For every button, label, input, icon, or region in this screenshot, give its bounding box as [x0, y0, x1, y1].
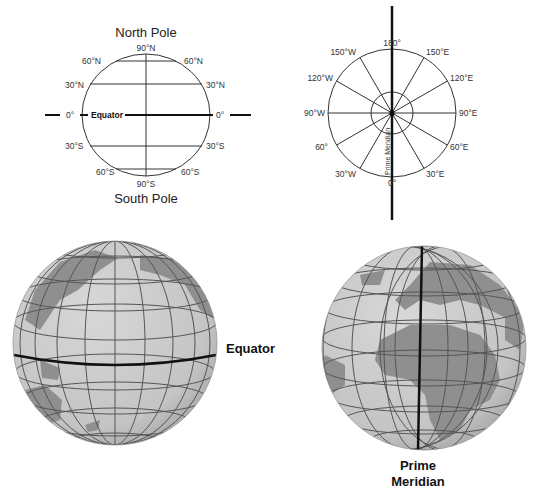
lon-90w-label: 90°W [304, 108, 325, 118]
longitude-diagram: 180° 0° 150°W 120°W 90°W 60° 30°W 150°E … [304, 6, 478, 220]
lat-60n-left-label: 60°N [82, 56, 101, 66]
lat-60n-right-label: 60°N [184, 56, 203, 66]
lat-90s-label: 90°S [137, 179, 156, 189]
lon-0-label: 0° [388, 178, 396, 188]
globe-equator-label: Equator [226, 341, 275, 356]
lon-60e-label: 60°E [450, 142, 469, 152]
lat-30s-right-label: 30°S [206, 141, 225, 151]
globe-equator: Equator [13, 238, 275, 453]
lat-30s-left-label: 30°S [65, 141, 84, 151]
lat-30n-right-label: 30°N [206, 80, 225, 90]
lat-60s-right-label: 60°S [181, 167, 200, 177]
lon-120e-label: 120°E [450, 73, 474, 83]
lat-30n-left-label: 30°N [65, 80, 84, 90]
lat-0-left-label: 0° [66, 110, 74, 120]
globe-prime-meridian: Prime Meridian [302, 246, 526, 489]
lon-150e-label: 150°E [426, 47, 450, 57]
north-pole-title: North Pole [115, 25, 176, 40]
lon-180-label: 180° [383, 38, 401, 48]
lon-30w-label: 30°W [335, 169, 356, 179]
globe-prime-label-line2: Meridian [391, 474, 445, 489]
lat-60s-left-label: 60°S [96, 167, 115, 177]
globe-prime-label-line1: Prime [400, 458, 436, 473]
lon-150w-label: 150°W [330, 47, 356, 57]
prime-meridian-vertical-label: Prime Meridian [384, 128, 391, 175]
latitude-diagram: North Pole 90°N 0° Equator 0° 60°N 60°N … [45, 25, 251, 206]
lon-30e-label: 30°E [426, 169, 445, 179]
south-pole-title: South Pole [114, 191, 178, 206]
lon-90e-label: 90°E [459, 108, 478, 118]
lat-0-right-label: 0° [216, 110, 224, 120]
equator-label: Equator [91, 110, 124, 120]
lat-90n-label: 90°N [137, 43, 156, 53]
lon-120w-label: 120°W [307, 73, 333, 83]
north-pole-dot [390, 111, 395, 116]
lon-60w-label: 60° [315, 142, 328, 152]
